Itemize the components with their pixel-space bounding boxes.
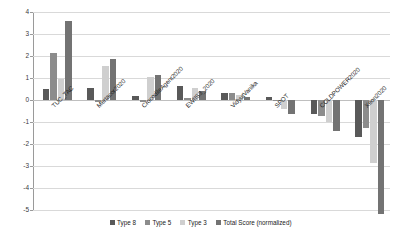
gridline — [33, 12, 390, 13]
y-tick-mark — [30, 210, 33, 211]
y-tick-label: -5 — [3, 207, 29, 214]
y-tick-mark — [30, 144, 33, 145]
bar — [333, 100, 340, 131]
y-tick-mark — [30, 188, 33, 189]
legend-label: Type 3 — [188, 219, 207, 226]
bar — [177, 86, 184, 100]
bar — [378, 100, 385, 214]
legend-item: Total Score (normalized) — [216, 219, 292, 226]
y-tick-label: 1 — [3, 75, 29, 82]
y-tick-mark — [30, 166, 33, 167]
bar — [132, 96, 139, 100]
legend-label: Type 8 — [117, 219, 136, 226]
bar — [50, 53, 57, 100]
y-tick-mark — [30, 12, 33, 13]
legend-swatch-icon — [216, 220, 221, 225]
y-axis-line — [33, 12, 34, 210]
gridline — [33, 188, 390, 189]
gridline — [33, 144, 390, 145]
y-tick-mark — [30, 56, 33, 57]
legend-item: Type 3 — [180, 219, 206, 226]
bar — [87, 88, 94, 100]
bar — [355, 100, 362, 137]
bar — [43, 89, 50, 100]
bar — [311, 100, 318, 114]
bar — [370, 100, 377, 163]
y-tick-label: 2 — [3, 53, 29, 60]
plot-area — [33, 12, 390, 210]
y-tick-label: 4 — [3, 9, 29, 16]
y-tick-label: -3 — [3, 163, 29, 170]
legend-swatch-icon — [110, 220, 115, 225]
y-tick-label: 0 — [3, 97, 29, 104]
legend-item: Type 8 — [110, 219, 136, 226]
y-tick-label: 3 — [3, 31, 29, 38]
y-tick-label: -4 — [3, 185, 29, 192]
y-tick-mark — [30, 78, 33, 79]
y-tick-mark — [30, 100, 33, 101]
gridline — [33, 56, 390, 57]
bar-chart: 43210-1-2-3-4-5 TUC_TACMertacor2020Croco… — [0, 0, 401, 237]
legend-label: Type 5 — [152, 219, 171, 226]
gridline — [33, 210, 390, 211]
bar — [266, 97, 273, 100]
chart-legend: Type 8Type 5Type 3Total Score (normalize… — [0, 219, 401, 226]
legend-swatch-icon — [145, 220, 150, 225]
y-tick-mark — [30, 34, 33, 35]
bar — [221, 93, 228, 100]
y-tick-label: -1 — [3, 119, 29, 126]
legend-label: Total Score (normalized) — [223, 219, 291, 226]
gridline — [33, 166, 390, 167]
y-tick-label: -2 — [3, 141, 29, 148]
gridline — [33, 34, 390, 35]
legend-swatch-icon — [180, 220, 185, 225]
legend-item: Type 5 — [145, 219, 171, 226]
bar — [288, 100, 295, 114]
y-tick-mark — [30, 122, 33, 123]
